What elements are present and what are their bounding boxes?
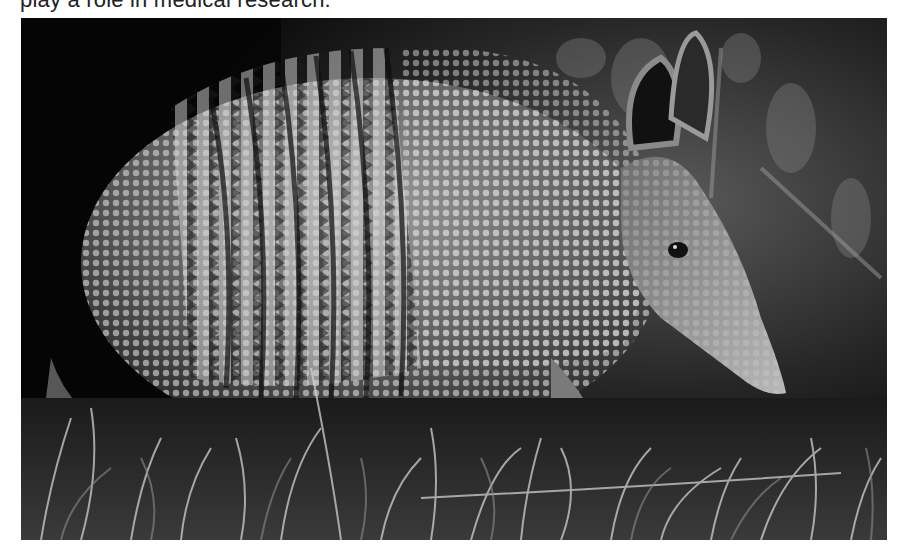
armadillo-photo: [21, 18, 887, 540]
body-text-line: play a role in medical research.: [20, 0, 331, 13]
armadillo-illustration: [21, 18, 887, 540]
